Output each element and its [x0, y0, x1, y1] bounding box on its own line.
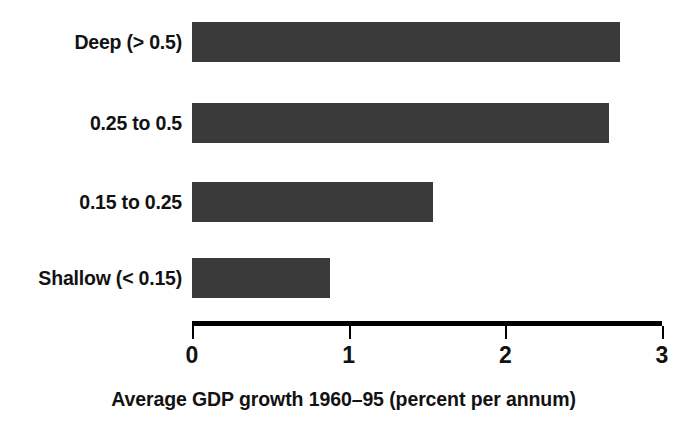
x-axis-tick-mark — [192, 326, 194, 339]
bar-chart: Deep (> 0.5) 0.25 to 0.5 0.15 to 0.25 Sh… — [0, 0, 687, 438]
x-axis-tick-label: 2 — [485, 342, 525, 369]
x-axis-title: Average GDP growth 1960–95 (percent per … — [0, 388, 687, 411]
x-axis-tick-mark — [505, 326, 507, 339]
x-axis-line — [192, 321, 662, 326]
x-axis-tick-mark — [662, 326, 664, 339]
x-axis-tick-label: 1 — [329, 342, 369, 369]
x-axis-tick-label: 3 — [642, 342, 682, 369]
x-axis-tick-label: 0 — [172, 342, 212, 369]
x-axis-tick-mark — [349, 326, 351, 339]
x-axis: 0 1 2 3 Average GDP growth 1960–95 (perc… — [0, 0, 687, 438]
